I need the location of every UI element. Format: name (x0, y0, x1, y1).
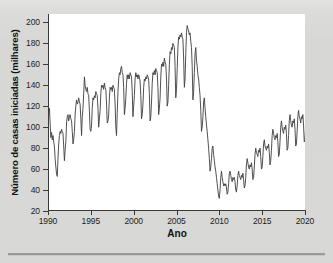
y-tick-label-wrap-40: 40 (0, 185, 40, 195)
page-divider-rule-shadow (8, 255, 325, 256)
y-tick-label-wrap-120: 120 (0, 101, 40, 111)
x-tick-label-wrap-2005: 2005 (157, 216, 197, 227)
y-tick-label-wrap-160: 160 (0, 59, 40, 69)
chart-figure: 20406080100120140160180200 1990199520002… (0, 0, 333, 240)
y-tick-label-wrap-80: 80 (0, 143, 40, 153)
y-tick-label-wrap-140: 140 (0, 80, 40, 90)
y-tick-label-60: 60 (31, 164, 40, 174)
x-tick-label-2015: 2015 (242, 216, 282, 226)
y-tick-label-160: 160 (26, 59, 40, 69)
y-tick-label-180: 180 (26, 38, 40, 48)
y-tick-label-80: 80 (31, 143, 40, 153)
x-tick-label-1995: 1995 (71, 216, 111, 226)
y-tick-label-20: 20 (31, 206, 40, 216)
x-tick-label-wrap-2020: 2020 (285, 216, 325, 227)
x-tick-label-wrap-2000: 2000 (114, 216, 154, 227)
y-tick-label-wrap-200: 200 (0, 17, 40, 27)
x-tick-label-wrap-1995: 1995 (71, 216, 111, 227)
y-tick-label-120: 120 (26, 101, 40, 111)
x-tick-label-2010: 2010 (199, 216, 239, 226)
y-tick-label-40: 40 (31, 185, 40, 195)
y-tick-label-wrap-180: 180 (0, 38, 40, 48)
x-tick-2020 (305, 210, 306, 215)
x-axis-label: Ano (48, 228, 306, 239)
y-axis-label: Número de casas iniciadas (milhares) (9, 13, 20, 213)
x-tick-label-2005: 2005 (157, 216, 197, 226)
x-tick-label-2020: 2020 (285, 216, 325, 226)
page-background: 20406080100120140160180200 1990199520002… (0, 0, 333, 263)
y-tick-label-wrap-60: 60 (0, 164, 40, 174)
x-tick-label-1990: 1990 (28, 216, 68, 226)
y-tick-label-140: 140 (26, 80, 40, 90)
x-tick-label-wrap-1990: 1990 (28, 216, 68, 227)
y-tick-label-wrap-20: 20 (0, 206, 40, 216)
y-tick-label-200: 200 (26, 17, 40, 27)
y-tick-label-100: 100 (26, 122, 40, 132)
x-tick-label-wrap-2015: 2015 (242, 216, 282, 227)
series-line-chart (48, 14, 305, 211)
x-tick-label-wrap-2010: 2010 (199, 216, 239, 227)
y-tick-label-wrap-100: 100 (0, 122, 40, 132)
x-tick-label-2000: 2000 (114, 216, 154, 226)
